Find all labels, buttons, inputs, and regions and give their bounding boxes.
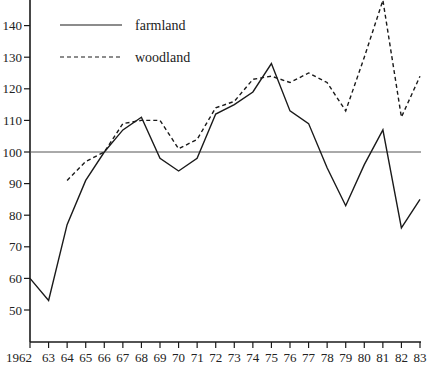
x-tick-label: 77 xyxy=(302,350,316,365)
y-tick-label: 140 xyxy=(3,18,23,33)
x-tick-label: 79 xyxy=(339,350,352,365)
x-tick-label: 71 xyxy=(191,350,204,365)
y-tick-label: 70 xyxy=(9,239,22,254)
y-tick-label: 100 xyxy=(3,145,23,160)
x-tick-label: 1962 xyxy=(6,350,32,365)
x-tick-label: 81 xyxy=(376,350,389,365)
y-tick-label: 130 xyxy=(3,50,23,65)
x-tick-label: 64 xyxy=(61,350,75,365)
x-tick-label: 63 xyxy=(42,350,55,365)
series-lines xyxy=(30,0,420,300)
x-tick-label: 70 xyxy=(172,350,185,365)
series-farmland xyxy=(30,64,420,301)
x-tick-label: 67 xyxy=(116,350,130,365)
y-tick-label: 90 xyxy=(9,176,22,191)
x-tick-label: 80 xyxy=(358,350,371,365)
x-tick-label: 76 xyxy=(284,350,298,365)
line-chart: 5060708090100110120130140 19626364656667… xyxy=(0,0,429,368)
x-tick-label: 68 xyxy=(135,350,148,365)
y-tick-label: 120 xyxy=(3,81,23,96)
x-tick-label: 74 xyxy=(246,350,260,365)
x-tick-label: 73 xyxy=(228,350,241,365)
x-tick-label: 69 xyxy=(154,350,167,365)
y-tick-label: 80 xyxy=(9,208,22,223)
y-tick-label: 50 xyxy=(9,303,22,318)
legend-label-farmland: farmland xyxy=(135,18,186,33)
x-tick-label: 65 xyxy=(79,350,92,365)
y-axis: 5060708090100110120130140 xyxy=(3,0,31,342)
x-tick-label: 82 xyxy=(395,350,408,365)
x-tick-label: 72 xyxy=(209,350,222,365)
series-woodland xyxy=(67,0,420,180)
x-tick-label: 75 xyxy=(265,350,278,365)
y-tick-label: 60 xyxy=(9,271,22,286)
x-tick-label: 66 xyxy=(98,350,112,365)
x-tick-label: 78 xyxy=(321,350,334,365)
x-tick-label: 83 xyxy=(414,350,427,365)
legend-label-woodland: woodland xyxy=(135,50,190,65)
x-axis: 1962636465666768697071727374757677787980… xyxy=(6,342,427,365)
y-tick-label: 110 xyxy=(3,113,22,128)
legend: farmland woodland xyxy=(60,18,190,65)
